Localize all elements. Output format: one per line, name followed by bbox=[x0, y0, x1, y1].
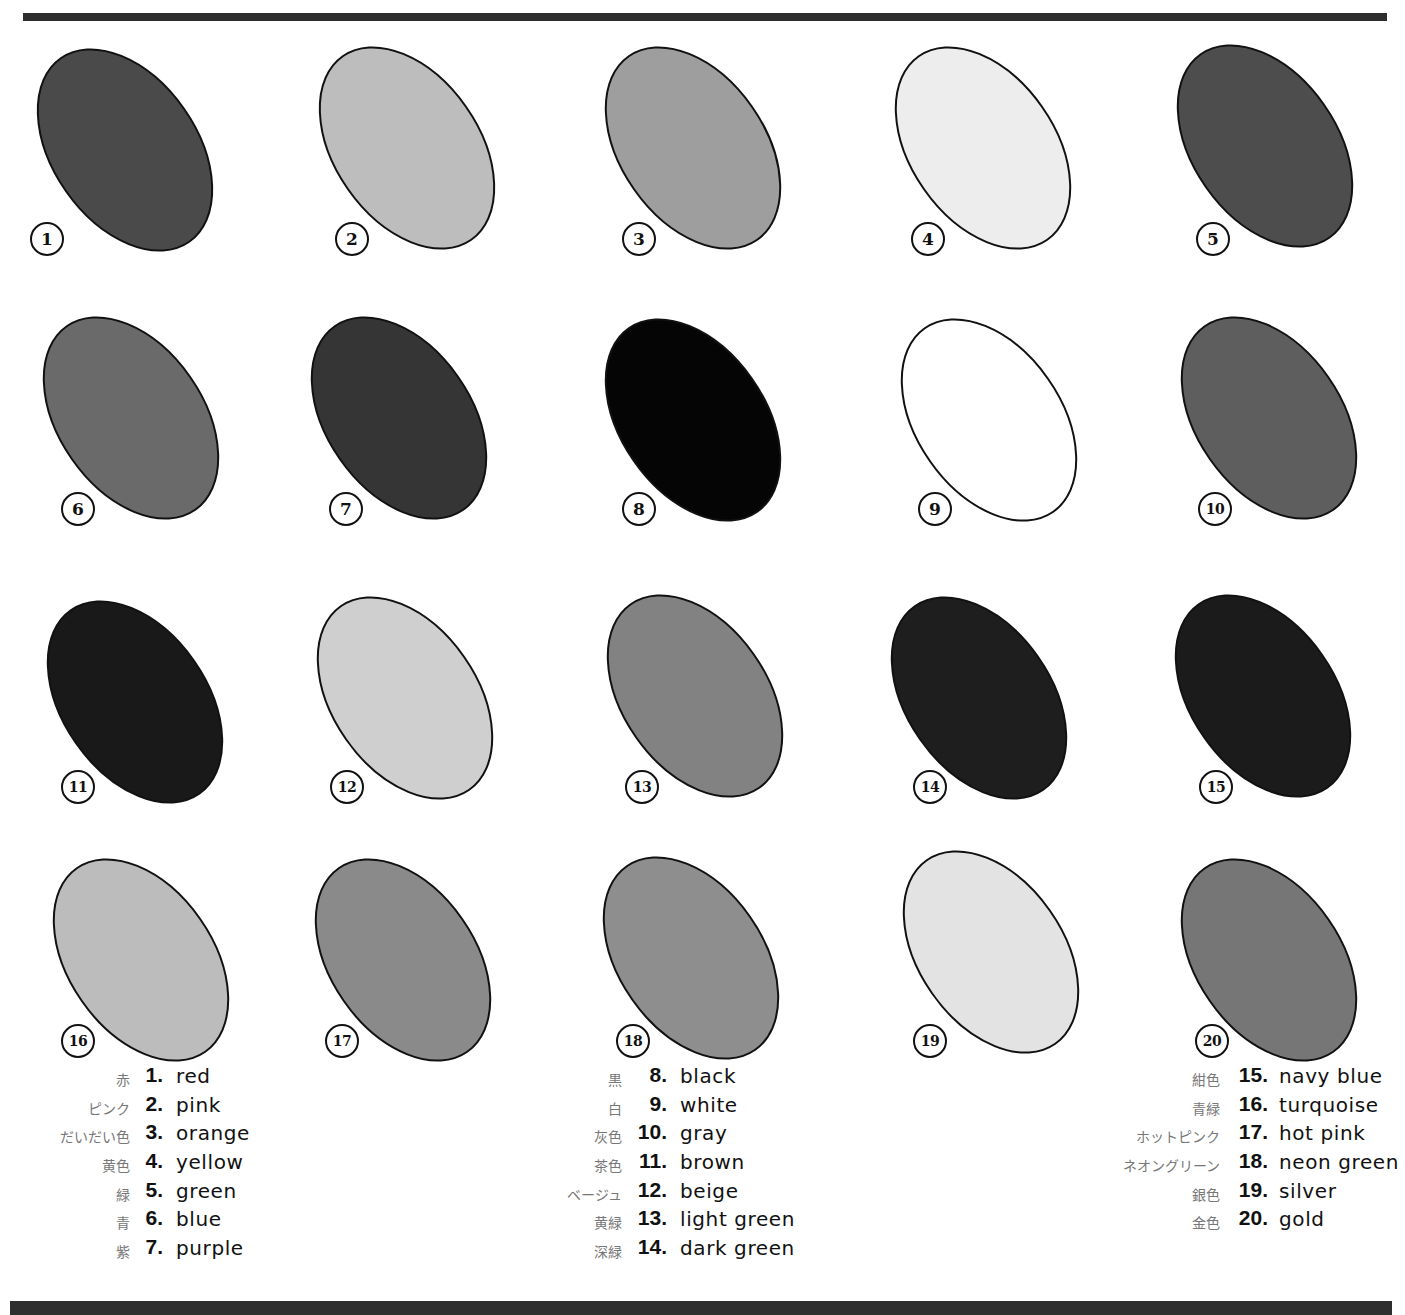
swatch-number-badge: 20 bbox=[1195, 1024, 1229, 1058]
color-number: 2. bbox=[145, 1092, 163, 1116]
legend-item: 白9.white bbox=[520, 1092, 840, 1121]
japanese-color-name: 緑 bbox=[116, 1184, 130, 1204]
english-color-name: black bbox=[680, 1064, 736, 1088]
color-number: 19. bbox=[1239, 1178, 1268, 1202]
english-color-name: light green bbox=[680, 1207, 795, 1231]
swatch-number-badge: 7 bbox=[329, 492, 363, 526]
color-number: 8. bbox=[649, 1063, 667, 1087]
legend-item: だいだい色3.orange bbox=[0, 1120, 260, 1149]
japanese-color-name: 紫 bbox=[116, 1241, 130, 1261]
color-number: 17. bbox=[1239, 1120, 1268, 1144]
japanese-color-name: 赤 bbox=[116, 1069, 130, 1089]
legend-item: 紫7.purple bbox=[0, 1235, 260, 1264]
legend-item: 緑5.green bbox=[0, 1178, 260, 1207]
japanese-color-name: 青緑 bbox=[1192, 1098, 1220, 1118]
english-color-name: green bbox=[176, 1179, 237, 1203]
english-color-name: dark green bbox=[680, 1236, 795, 1260]
japanese-color-name: ピンク bbox=[88, 1098, 130, 1118]
swatch-number-badge: 5 bbox=[1196, 222, 1230, 256]
english-color-name: beige bbox=[680, 1179, 739, 1203]
japanese-color-name: 茶色 bbox=[594, 1155, 622, 1175]
swatch-number-badge: 3 bbox=[622, 222, 656, 256]
legend-column-2: 黒8.black白9.white灰色10.gray茶色11.brownベージュ1… bbox=[520, 1063, 840, 1264]
swatch-number-badge: 12 bbox=[330, 770, 364, 804]
japanese-color-name: 銀色 bbox=[1192, 1184, 1220, 1204]
english-color-name: white bbox=[680, 1093, 738, 1117]
english-color-name: orange bbox=[176, 1121, 250, 1145]
english-color-name: gold bbox=[1279, 1207, 1325, 1231]
color-number: 11. bbox=[639, 1149, 667, 1173]
swatch-number-badge: 10 bbox=[1198, 492, 1232, 526]
japanese-color-name: 青 bbox=[116, 1212, 130, 1232]
color-number: 3. bbox=[145, 1120, 163, 1144]
swatch-number-badge: 6 bbox=[61, 492, 95, 526]
english-color-name: silver bbox=[1279, 1179, 1337, 1203]
swatch-number-badge: 8 bbox=[622, 492, 656, 526]
color-number: 4. bbox=[145, 1149, 163, 1173]
legend-column-3: 紺色15.navy blue青緑16.turquoiseホットピンク17.hot… bbox=[1060, 1063, 1405, 1235]
english-color-name: neon green bbox=[1279, 1150, 1399, 1174]
japanese-color-name: ホットピンク bbox=[1136, 1126, 1220, 1146]
color-number: 9. bbox=[649, 1092, 667, 1116]
japanese-color-name: ネオングリーン bbox=[1123, 1155, 1220, 1175]
color-number: 14. bbox=[638, 1235, 667, 1259]
swatch-number-badge: 15 bbox=[1199, 770, 1233, 804]
japanese-color-name: だいだい色 bbox=[60, 1126, 130, 1146]
legend-item: ホットピンク17.hot pink bbox=[1060, 1120, 1405, 1149]
japanese-color-name: ベージュ bbox=[567, 1184, 622, 1204]
swatch-number-badge: 14 bbox=[913, 770, 947, 804]
legend-item: 銀色19.silver bbox=[1060, 1178, 1405, 1207]
bottom-rule bbox=[10, 1301, 1392, 1315]
legend-item: 黄色4.yellow bbox=[0, 1149, 260, 1178]
english-color-name: purple bbox=[176, 1236, 244, 1260]
legend-item: 金色20.gold bbox=[1060, 1206, 1405, 1235]
color-number: 20. bbox=[1239, 1206, 1268, 1230]
legend-item: 黒8.black bbox=[520, 1063, 840, 1092]
color-number: 12. bbox=[638, 1178, 667, 1202]
english-color-name: red bbox=[176, 1064, 211, 1088]
legend-item: 灰色10.gray bbox=[520, 1120, 840, 1149]
legend-item: 青6.blue bbox=[0, 1206, 260, 1235]
color-number: 6. bbox=[145, 1206, 163, 1230]
english-color-name: hot pink bbox=[1279, 1121, 1365, 1145]
legend-item: 深緑14.dark green bbox=[520, 1235, 840, 1264]
legend-item: ベージュ12.beige bbox=[520, 1178, 840, 1207]
japanese-color-name: 黄緑 bbox=[594, 1212, 622, 1232]
english-color-name: gray bbox=[680, 1121, 727, 1145]
swatch-number-badge: 4 bbox=[911, 222, 945, 256]
swatch-number-badge: 17 bbox=[325, 1024, 359, 1058]
english-color-name: blue bbox=[176, 1207, 222, 1231]
japanese-color-name: 金色 bbox=[1192, 1212, 1220, 1232]
japanese-color-name: 黒 bbox=[608, 1069, 622, 1089]
legend-item: 紺色15.navy blue bbox=[1060, 1063, 1405, 1092]
color-number: 18. bbox=[1239, 1149, 1268, 1173]
color-number: 16. bbox=[1239, 1092, 1268, 1116]
swatch-number-badge: 18 bbox=[616, 1024, 650, 1058]
swatch-number-badge: 9 bbox=[918, 492, 952, 526]
japanese-color-name: 灰色 bbox=[594, 1126, 622, 1146]
swatch-number-badge: 1 bbox=[30, 222, 64, 256]
japanese-color-name: 白 bbox=[608, 1098, 622, 1118]
english-color-name: pink bbox=[176, 1093, 221, 1117]
legend-item: ネオングリーン18.neon green bbox=[1060, 1149, 1405, 1178]
legend-item: 茶色11.brown bbox=[520, 1149, 840, 1178]
color-number: 5. bbox=[145, 1178, 163, 1202]
swatch-number-badge: 19 bbox=[913, 1024, 947, 1058]
legend-item: 赤1.red bbox=[0, 1063, 260, 1092]
japanese-color-name: 紺色 bbox=[1192, 1069, 1220, 1089]
color-number: 10. bbox=[638, 1120, 667, 1144]
swatch-number-badge: 2 bbox=[335, 222, 369, 256]
top-rule bbox=[23, 13, 1387, 21]
color-number: 7. bbox=[145, 1235, 163, 1259]
japanese-color-name: 黄色 bbox=[102, 1155, 130, 1175]
legend-item: 青緑16.turquoise bbox=[1060, 1092, 1405, 1121]
swatch-number-badge: 11 bbox=[61, 770, 95, 804]
japanese-color-name: 深緑 bbox=[594, 1241, 622, 1261]
english-color-name: yellow bbox=[176, 1150, 243, 1174]
english-color-name: navy blue bbox=[1279, 1064, 1383, 1088]
color-number: 15. bbox=[1239, 1063, 1268, 1087]
english-color-name: brown bbox=[680, 1150, 745, 1174]
legend-column-1: 赤1.redピンク2.pinkだいだい色3.orange黄色4.yellow緑5… bbox=[0, 1063, 260, 1264]
swatch-number-badge: 16 bbox=[61, 1024, 95, 1058]
color-number: 1. bbox=[145, 1063, 163, 1087]
